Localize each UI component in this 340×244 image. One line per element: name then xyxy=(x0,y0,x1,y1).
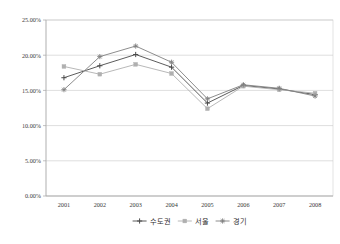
legend-label: 서울 xyxy=(195,217,209,226)
y-axis-tick-label: 10.00% xyxy=(22,122,41,129)
data-point-marker xyxy=(98,72,102,76)
legend-item-서울[interactable]: 서울 xyxy=(178,217,209,226)
x-axis-tick-label: 2004 xyxy=(165,201,177,208)
chart-container: 0.00%5.00%10.00%15.00%20.00%25.00%200120… xyxy=(0,0,340,244)
x-axis-tick-label: 2006 xyxy=(237,201,249,208)
series-수도권 xyxy=(61,52,317,106)
data-point-marker xyxy=(183,219,187,223)
x-axis-tick-label: 2001 xyxy=(58,201,70,208)
x-axis-tick-label: 2005 xyxy=(201,201,213,208)
plot-area xyxy=(46,20,333,196)
x-axis-tick-label: 2003 xyxy=(130,201,142,208)
x-axis-tick-label: 2007 xyxy=(273,201,285,208)
x-axis-tick-label: 2002 xyxy=(94,201,106,208)
legend-item-수도권[interactable]: 수도권 xyxy=(133,218,171,226)
data-point-marker xyxy=(134,62,138,66)
legend-item-경기[interactable]: 경기 xyxy=(216,217,247,226)
y-axis-tick-label: 20.00% xyxy=(22,52,41,59)
series-line xyxy=(64,55,315,104)
data-point-marker xyxy=(62,65,66,69)
x-axis-tick-label: 2008 xyxy=(309,201,321,208)
y-axis-tick-label: 0.00% xyxy=(25,192,41,199)
line-chart: 0.00%5.00%10.00%15.00%20.00%25.00%200120… xyxy=(0,0,340,244)
y-axis-tick-label: 25.00% xyxy=(22,16,41,23)
data-point-marker xyxy=(206,107,210,111)
y-axis-tick-label: 5.00% xyxy=(25,157,41,164)
legend-label: 수도권 xyxy=(150,218,171,226)
legend-label: 경기 xyxy=(233,217,247,226)
y-axis-tick-label: 15.00% xyxy=(22,87,41,94)
data-point-marker xyxy=(170,72,174,76)
